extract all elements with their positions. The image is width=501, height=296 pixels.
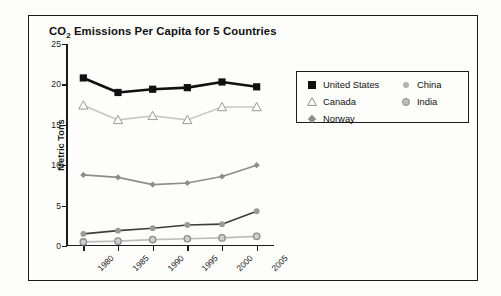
data-point bbox=[149, 86, 156, 93]
data-point bbox=[184, 222, 190, 228]
data-point bbox=[254, 162, 260, 168]
data-point bbox=[219, 173, 225, 179]
y-tick-label: 0 bbox=[56, 241, 64, 251]
series-united-states bbox=[80, 74, 261, 96]
data-point bbox=[115, 174, 121, 180]
data-point bbox=[219, 221, 225, 227]
x-tick-label: 2005 bbox=[269, 253, 289, 273]
legend-item-label: India bbox=[417, 96, 437, 107]
legend-item-label: China bbox=[417, 79, 442, 90]
legend-column-right: ChinaIndia bbox=[400, 77, 442, 111]
y-tick-label: 20 bbox=[51, 79, 64, 89]
data-point bbox=[150, 181, 156, 187]
series-norway bbox=[80, 162, 260, 188]
data-point bbox=[80, 74, 87, 81]
x-tick-label: 1990 bbox=[165, 253, 185, 273]
series-line bbox=[83, 78, 256, 93]
filled-square-icon bbox=[306, 79, 317, 90]
legend-column-left: United StatesCanadaNorway bbox=[306, 77, 379, 128]
series-india bbox=[80, 233, 260, 245]
data-point bbox=[184, 236, 190, 242]
y-tick-label: 10 bbox=[51, 160, 64, 170]
diamond-icon bbox=[306, 113, 317, 124]
ring-circle-icon bbox=[400, 96, 411, 107]
series-china bbox=[80, 208, 259, 236]
data-point bbox=[114, 89, 121, 96]
small-dot-icon bbox=[400, 79, 411, 90]
data-point bbox=[254, 208, 260, 214]
plot-area: Metric Tons 0510152025 19801985199019952… bbox=[66, 44, 274, 246]
open-triangle-icon bbox=[306, 96, 317, 107]
x-tick bbox=[83, 246, 84, 251]
data-point bbox=[80, 231, 86, 237]
series-layer bbox=[66, 44, 274, 246]
x-tick bbox=[222, 246, 223, 251]
chart-title-main: CO bbox=[49, 25, 66, 37]
x-tick-label: 2000 bbox=[234, 253, 254, 273]
data-point bbox=[80, 239, 86, 245]
data-point bbox=[115, 238, 121, 244]
data-point bbox=[79, 101, 88, 109]
x-tick-label: 1980 bbox=[96, 253, 116, 273]
data-point bbox=[253, 83, 260, 90]
chart-title-rest: Emissions Per Capita for 5 Countries bbox=[71, 25, 277, 37]
y-tick-label: 15 bbox=[51, 120, 64, 130]
legend-item-label: United States bbox=[323, 79, 379, 90]
legend-item[interactable]: Norway bbox=[306, 111, 379, 126]
data-point bbox=[253, 233, 259, 239]
legend-item-label: Norway bbox=[323, 113, 355, 124]
chart-title: CO2 Emissions Per Capita for 5 Countries bbox=[49, 25, 277, 40]
legend-item-label: Canada bbox=[323, 96, 356, 107]
x-tick bbox=[187, 246, 188, 251]
data-point bbox=[149, 236, 155, 242]
legend-item[interactable]: Canada bbox=[306, 94, 379, 109]
data-point bbox=[184, 180, 190, 186]
x-tick bbox=[153, 246, 154, 251]
legend-item[interactable]: China bbox=[400, 77, 442, 92]
chart-legend: United StatesCanadaNorway ChinaIndia bbox=[296, 71, 469, 123]
data-point bbox=[184, 84, 191, 91]
series-line bbox=[83, 236, 256, 242]
data-point bbox=[80, 172, 86, 178]
x-tick bbox=[257, 246, 258, 251]
x-tick-label: 1985 bbox=[130, 253, 150, 273]
data-point bbox=[219, 235, 225, 241]
x-tick-label: 1995 bbox=[200, 253, 220, 273]
series-canada bbox=[79, 101, 262, 124]
legend-item[interactable]: India bbox=[400, 94, 442, 109]
y-tick-label: 25 bbox=[51, 39, 64, 49]
series-line bbox=[83, 165, 256, 184]
x-tick bbox=[118, 246, 119, 251]
data-point bbox=[150, 225, 156, 231]
figure-frame: CO2 Emissions Per Capita for 5 Countries… bbox=[28, 15, 478, 281]
data-point bbox=[115, 228, 121, 234]
legend-item[interactable]: United States bbox=[306, 77, 379, 92]
data-point bbox=[218, 78, 225, 85]
series-line bbox=[83, 211, 256, 234]
series-line bbox=[83, 105, 256, 120]
y-tick-label: 5 bbox=[56, 201, 64, 211]
